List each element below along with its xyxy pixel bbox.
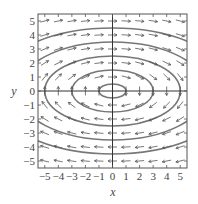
x-tick-label: 5 (177, 170, 183, 182)
field-arrow (177, 101, 183, 108)
y-axis-label: y (10, 84, 17, 98)
y-tick-label: 1 (30, 71, 36, 83)
axes (38, 14, 187, 168)
y-tick-label: −4 (23, 141, 35, 153)
y-tick-label: −1 (23, 99, 35, 111)
field-arrow (177, 73, 183, 80)
y-tick-label: 2 (30, 57, 36, 69)
x-tick-label: −5 (39, 170, 51, 182)
field-arrow (42, 73, 48, 80)
x-tick-label: 1 (123, 170, 129, 182)
x-tick-label: 3 (150, 170, 156, 182)
field-arrow (163, 74, 169, 80)
y-tick-label: −2 (23, 113, 35, 125)
field-arrow (42, 101, 48, 108)
field-arrow (55, 74, 61, 80)
x-axis-label: x (109, 185, 116, 199)
y-tick-label: 0 (30, 85, 36, 97)
field-arrow (163, 102, 169, 108)
y-tick-label: −5 (23, 155, 35, 167)
y-tick-label: 4 (30, 29, 36, 41)
x-tick-label: 2 (137, 170, 143, 182)
x-tick-label: −4 (52, 170, 64, 182)
x-tick-label: −2 (80, 170, 92, 182)
direction-field-plot: −5−4−3−2−1012345 543210−1−2−3−4−5 x y (0, 0, 198, 204)
x-tick-label: −3 (66, 170, 78, 182)
y-tick-label: −3 (23, 127, 35, 139)
field-arrow (55, 102, 61, 108)
x-tick-label: −1 (93, 170, 105, 182)
x-tick-label: 4 (164, 170, 170, 182)
y-tick-label: 5 (30, 15, 36, 27)
x-tick-label: 0 (110, 170, 116, 182)
y-tick-label: 3 (30, 43, 36, 55)
